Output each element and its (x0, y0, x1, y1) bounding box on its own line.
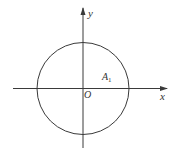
point-a1-label: A1 (101, 71, 112, 84)
x-axis-label: x (159, 90, 165, 102)
coordinate-diagram: y x O A1 (0, 0, 177, 158)
origin-label: O (84, 89, 91, 100)
y-axis-label: y (87, 7, 93, 19)
point-subscript: 1 (108, 76, 112, 84)
